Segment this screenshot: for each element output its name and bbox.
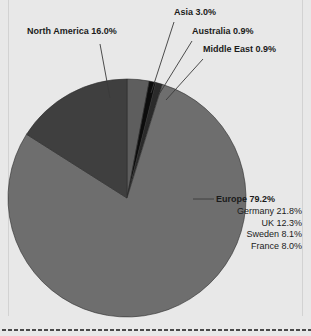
slice-label-australia: Australia 0.9% xyxy=(192,26,254,37)
leader-line-asia xyxy=(151,22,174,93)
breakdown-item-france: France 8.0% xyxy=(196,241,302,253)
slice-label-north-america: North America 16.0% xyxy=(27,26,117,37)
pie-slice-group xyxy=(8,79,246,317)
leader-line-australia xyxy=(158,41,192,96)
breakdown-item-sweden: Sweden 8.1% xyxy=(196,229,302,241)
slice-label-middle-east: Middle East 0.9% xyxy=(203,44,276,55)
pie-chart-panel: North America 16.0% Asia 3.0% Australia … xyxy=(0,0,311,336)
slice-label-europe: Europe 79.2% xyxy=(216,194,275,205)
breakdown-item-uk: UK 12.3% xyxy=(196,218,302,230)
breakdown-item-germany: Germany 21.8% xyxy=(196,206,302,218)
europe-breakdown-list: Germany 21.8% UK 12.3% Sweden 8.1% Franc… xyxy=(196,206,302,252)
slice-label-asia: Asia 3.0% xyxy=(174,7,216,18)
dotted-bottom-border xyxy=(0,328,311,332)
